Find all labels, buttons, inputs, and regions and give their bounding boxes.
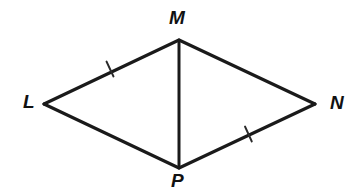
geometry-figure: M L N P <box>0 0 362 195</box>
vertex-label-m: M <box>169 8 185 27</box>
vertex-label-n: N <box>330 93 344 112</box>
segment-mn <box>179 40 315 104</box>
vertex-label-l: L <box>23 92 35 111</box>
segment-pl <box>44 104 179 168</box>
segment-np <box>179 104 315 168</box>
vertex-label-p: P <box>171 171 184 190</box>
figure-canvas <box>0 0 362 195</box>
